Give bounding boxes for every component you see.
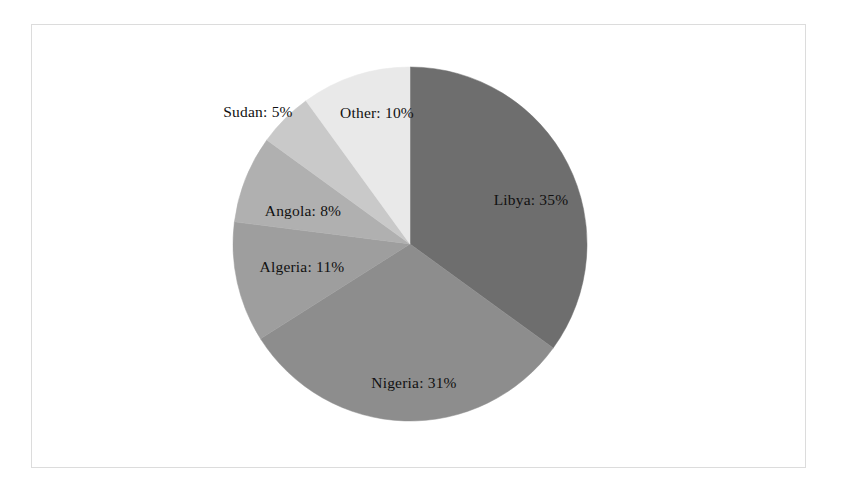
pie-label-other: Other: 10% bbox=[340, 104, 414, 122]
figure-root: Libya: 35%Nigeria: 31%Algeria: 11%Angola… bbox=[0, 0, 842, 498]
pie-chart: Libya: 35%Nigeria: 31%Algeria: 11%Angola… bbox=[0, 0, 842, 498]
pie-svg bbox=[0, 0, 842, 498]
pie-label-algeria: Algeria: 11% bbox=[260, 258, 345, 276]
pie-label-libya: Libya: 35% bbox=[494, 191, 569, 209]
pie-label-nigeria: Nigeria: 31% bbox=[371, 374, 456, 392]
pie-label-angola: Angola: 8% bbox=[265, 202, 341, 220]
pie-label-sudan: Sudan: 5% bbox=[223, 103, 292, 121]
